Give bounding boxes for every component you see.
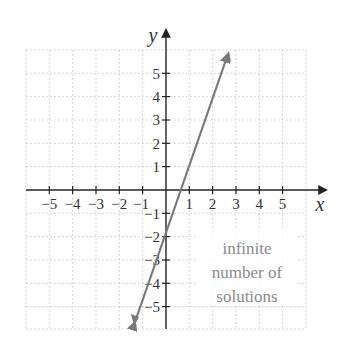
y-axis-label: y (147, 24, 158, 47)
annotation: infinite number of solutions (198, 229, 296, 306)
annotation-line: number of (212, 263, 283, 282)
x-tick-label: 4 (256, 196, 264, 212)
y-tick-label: −2 (144, 229, 160, 245)
x-tick-label: 2 (209, 196, 217, 212)
x-tick-labels: −5 −4 −3 −2 −1 1 2 3 4 5 (41, 196, 286, 212)
coordinate-plane: −5 −4 −3 −2 −1 1 2 3 4 5 5 4 3 2 1 −1 −2… (0, 0, 342, 344)
y-tick-label: 3 (153, 112, 161, 128)
x-tick-label: −2 (111, 196, 127, 212)
y-tick-label: 4 (153, 89, 161, 105)
y-tick-label: 2 (153, 136, 161, 152)
x-axis-label: x (315, 193, 325, 215)
y-tick-label: 5 (153, 66, 161, 82)
y-tick-label: −1 (144, 206, 160, 222)
x-tick-label: 5 (279, 196, 287, 212)
x-tick-label: −4 (65, 196, 81, 212)
x-tick-label: −5 (41, 196, 57, 212)
y-tick-label: 1 (153, 159, 161, 175)
line-end-arrow-icon (223, 51, 231, 62)
x-tick-label: 1 (186, 196, 194, 212)
y-tick-label: −5 (144, 299, 160, 315)
x-tick-label: −3 (88, 196, 104, 212)
annotation-line: infinite (222, 239, 271, 258)
x-tick-label: 3 (232, 196, 240, 212)
annotation-line: solutions (216, 287, 277, 306)
